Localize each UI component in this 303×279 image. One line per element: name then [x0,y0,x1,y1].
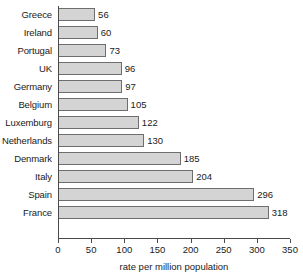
category-label: Spain [0,188,55,201]
bar-row: 97 [58,80,303,93]
bar-value-label: 60 [98,26,112,39]
bar-row: 73 [58,44,303,57]
bar-chart: GreeceIrelandPortugalUKGermanyBelgiumLux… [0,0,303,279]
x-axis-tick [58,239,59,243]
category-label: Portugal [0,44,55,57]
bar-series: 5660739697105122130185204296318 [58,8,303,224]
bar-value-label: 105 [128,98,147,111]
category-label: Ireland [0,26,55,39]
category-label: France [0,206,55,219]
bar [58,188,254,201]
category-label: Greece [0,8,55,21]
bar [58,134,144,147]
x-axis-tick [124,239,125,243]
category-label: Italy [0,170,55,183]
bar-value-label: 97 [122,80,136,93]
x-axis-tick [257,239,258,243]
x-axis-tick-label: 0 [55,244,60,255]
bar [58,44,106,57]
x-axis-tick [290,239,291,243]
bar-value-label: 96 [122,62,136,75]
x-axis-tick [157,239,158,243]
x-axis-tick-label: 100 [116,244,132,255]
bar-row: 185 [58,152,303,165]
bar-value-label: 56 [95,8,109,21]
bar [58,8,95,21]
y-axis-line [58,6,59,239]
bar-row: 130 [58,134,303,147]
x-axis-tick-label: 50 [86,244,97,255]
bar [58,170,193,183]
bar [58,152,181,165]
bar [58,62,122,75]
x-axis-tick [191,239,192,243]
bar [58,116,139,129]
category-label: Denmark [0,152,55,165]
x-axis-tick-label: 350 [282,244,298,255]
plot-area: GreeceIrelandPortugalUKGermanyBelgiumLux… [0,0,303,279]
category-label: Luxemburg [0,116,55,129]
category-label: Germany [0,80,55,93]
bar [58,98,128,111]
bar-row: 296 [58,188,303,201]
x-axis-tick-label: 150 [149,244,165,255]
x-axis-title: rate per million population [58,261,290,272]
bar-row: 204 [58,170,303,183]
bar-row: 96 [58,62,303,75]
bar-row: 105 [58,98,303,111]
bar-value-label: 318 [269,206,288,219]
bar-value-label: 73 [106,44,120,57]
bar-row: 318 [58,206,303,219]
bar-value-label: 296 [254,188,273,201]
x-axis-tick-label: 250 [216,244,232,255]
x-axis-tick-label: 300 [249,244,265,255]
bar-value-label: 185 [181,152,200,165]
bar [58,206,269,219]
category-label: Belgium [0,98,55,111]
bar-row: 122 [58,116,303,129]
bar [58,26,98,39]
bar-value-label: 122 [139,116,158,129]
bar-row: 56 [58,8,303,21]
x-axis-tick [224,239,225,243]
bar-value-label: 130 [144,134,163,147]
x-axis-line [58,238,290,239]
category-axis-labels: GreeceIrelandPortugalUKGermanyBelgiumLux… [0,8,55,224]
bar-row: 60 [58,26,303,39]
x-axis-tick-label: 200 [183,244,199,255]
bar-value-label: 204 [193,170,212,183]
category-label: UK [0,62,55,75]
category-label: Netherlands [0,134,55,147]
x-axis-tick [91,239,92,243]
bar [58,80,122,93]
